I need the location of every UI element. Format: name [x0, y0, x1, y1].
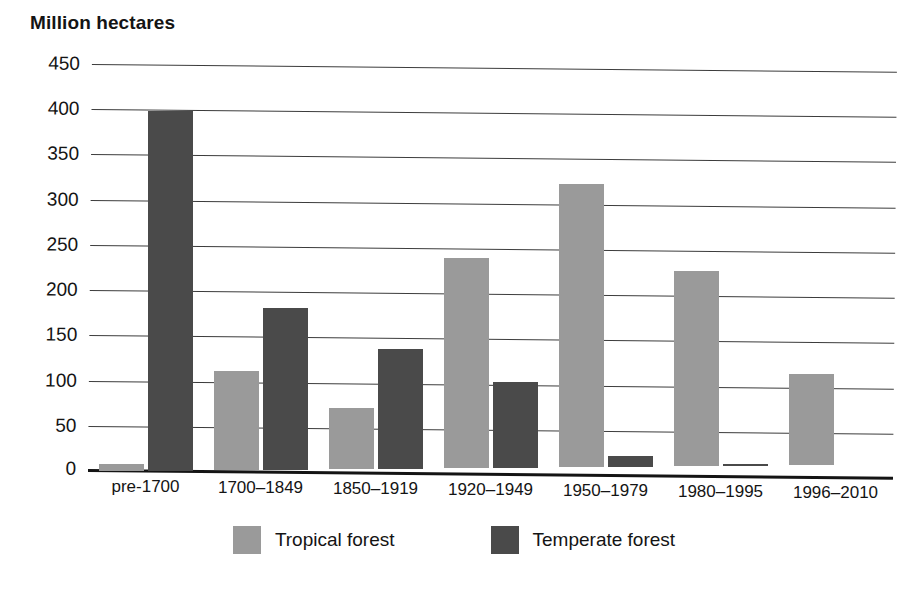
bar-tropical: [674, 271, 719, 465]
legend-item: Tropical forest: [233, 526, 395, 554]
legend-swatch-tropical: [233, 526, 261, 554]
bar-tropical: [559, 184, 604, 467]
x-axis-tick-label: 1980–1995: [678, 482, 763, 502]
legend-label: Temperate forest: [533, 529, 676, 551]
bar-group: [433, 65, 548, 472]
x-axis-tick-label: 1996–2010: [793, 483, 878, 503]
bar-temperate: [608, 456, 653, 467]
x-axis-tick-label: 1700–1849: [218, 478, 303, 498]
y-axis-tick-label: 0: [65, 458, 76, 480]
chart-legend: Tropical forestTemperate forest: [0, 526, 908, 554]
bar-tropical: [789, 374, 834, 464]
y-axis-tick-label: 150: [46, 324, 78, 346]
bar-group: [203, 65, 318, 472]
bar-temperate: [723, 464, 768, 466]
bar-tropical: [214, 371, 259, 470]
bar-temperate: [263, 308, 308, 471]
legend-label: Tropical forest: [275, 529, 395, 551]
y-axis-title: Million hectares: [30, 12, 175, 34]
bar-group: [663, 65, 778, 472]
y-axis-tick-label: 300: [47, 188, 79, 210]
x-axis-tick-labels: pre-17001700–18491850–19191920–19491950–…: [88, 478, 893, 508]
bars-group: [88, 65, 893, 472]
y-axis-tick-label: 250: [46, 233, 78, 255]
y-axis-tick-label: 100: [45, 369, 77, 391]
x-axis-tick-label: 1920–1949: [448, 480, 533, 500]
legend-item: Temperate forest: [491, 526, 676, 554]
x-axis-tick-label: 1850–1919: [333, 479, 418, 499]
x-axis-tick-label: 1950–1979: [563, 481, 648, 501]
bar-temperate: [148, 111, 193, 472]
y-axis-tick-label: 50: [55, 414, 76, 436]
bar-chart: Million hectares 45040035030025020015010…: [0, 0, 908, 610]
y-axis-tick-label: 450: [48, 53, 80, 75]
bar-tropical: [99, 464, 144, 471]
bar-temperate: [493, 382, 538, 468]
bar-group: [548, 65, 663, 472]
y-axis-tick-label: 350: [47, 143, 79, 165]
y-axis-tick-label: 400: [48, 98, 80, 120]
legend-swatch-temperate: [491, 526, 519, 554]
x-axis-tick-label: pre-1700: [111, 477, 179, 497]
bar-temperate: [378, 349, 423, 469]
bar-group: [318, 65, 433, 472]
bar-group: [88, 65, 203, 472]
bar-tropical: [444, 258, 489, 468]
y-axis-tick-label: 200: [46, 279, 78, 301]
bar-tropical: [329, 408, 374, 470]
bar-group: [778, 65, 893, 472]
plot-area: 450400350300250200150100500: [88, 65, 893, 472]
